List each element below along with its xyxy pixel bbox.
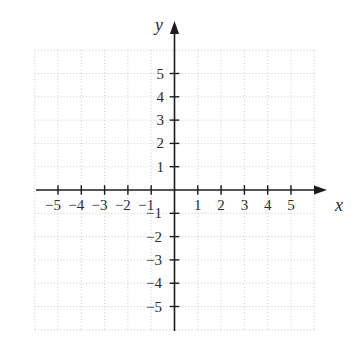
x-tick-label: −2	[115, 197, 131, 213]
y-tick-label: −3	[146, 252, 162, 268]
coordinate-plane-figure: −5−4−3−2−112345−5−4−3−2−112345xy	[0, 0, 355, 351]
y-tick-label: 5	[157, 66, 165, 82]
x-tick-label: 3	[241, 197, 249, 213]
x-tick-label: −4	[68, 197, 84, 213]
x-tick-label: −5	[45, 197, 61, 213]
y-axis-arrowhead	[170, 21, 179, 34]
x-tick-label: −3	[92, 197, 108, 213]
y-tick-label: 2	[157, 135, 165, 151]
y-tick-label: −4	[146, 275, 162, 291]
y-tick-label: −2	[146, 229, 162, 245]
x-tick-label: 5	[287, 197, 295, 213]
y-tick-label: 3	[157, 112, 165, 128]
x-tick-label: 2	[217, 197, 225, 213]
y-tick-label: 4	[157, 89, 165, 105]
y-tick-label: −1	[146, 205, 162, 221]
x-axis-arrowhead	[314, 185, 327, 194]
x-tick-label: 1	[194, 197, 202, 213]
x-tick-label: 4	[264, 197, 272, 213]
x-axis-label: x	[334, 195, 343, 215]
y-tick-label: 1	[157, 159, 165, 175]
coordinate-plane-svg: −5−4−3−2−112345−5−4−3−2−112345xy	[0, 0, 355, 351]
y-tick-label: −5	[146, 299, 162, 315]
y-axis-label: y	[153, 15, 163, 35]
axes	[36, 31, 316, 331]
